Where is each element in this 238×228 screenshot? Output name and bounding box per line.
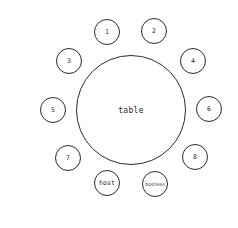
seat-label: 7 — [66, 154, 70, 162]
seat-hostess: hostess — [142, 171, 168, 197]
seat-5: 5 — [40, 97, 66, 123]
seat-label: 1 — [105, 28, 109, 36]
seat-3: 3 — [56, 48, 82, 74]
seat-1: 1 — [94, 19, 120, 45]
seat-label: 2 — [152, 27, 156, 35]
seat-7: 7 — [55, 145, 81, 171]
seat-label: host — [99, 179, 115, 187]
seat-label: 5 — [51, 106, 55, 114]
seat-label: 6 — [207, 105, 211, 113]
table-label: table — [118, 106, 144, 115]
seat-label: 4 — [191, 57, 195, 65]
seat-label: 3 — [67, 57, 71, 65]
seat-2: 2 — [141, 18, 167, 44]
seat-4: 4 — [180, 48, 206, 74]
seat-host: host — [94, 170, 120, 196]
seat-label: hostess — [145, 181, 165, 187]
seat-label: 8 — [193, 153, 197, 161]
seat-8: 8 — [182, 144, 208, 170]
table-circle: table — [76, 55, 186, 165]
seat-6: 6 — [196, 96, 222, 122]
seating-diagram: table 1 2 3 4 5 6 7 8 host hostess — [0, 0, 238, 228]
